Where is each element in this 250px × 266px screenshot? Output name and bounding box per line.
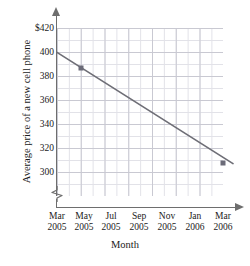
- plot-area: [57, 28, 223, 196]
- x-tick-year: 2006: [204, 222, 242, 233]
- data-point-marker: [221, 161, 226, 166]
- gridlines-major: [57, 28, 223, 196]
- x-axis-arrow-icon: [235, 203, 244, 211]
- x-tick-month: Mar: [204, 211, 242, 222]
- y-axis-line: [56, 14, 57, 196]
- x-tick-label: Mar 2006: [204, 211, 242, 233]
- data-point-marker: [79, 65, 84, 70]
- chart-figure: $420 400 380 360 340 320 300 Mar 2005 Ma…: [0, 0, 250, 266]
- y-axis-title: Average price of a new cell phone: [21, 22, 32, 202]
- x-axis-title: Month: [0, 239, 250, 250]
- x-axis-line: [56, 207, 236, 208]
